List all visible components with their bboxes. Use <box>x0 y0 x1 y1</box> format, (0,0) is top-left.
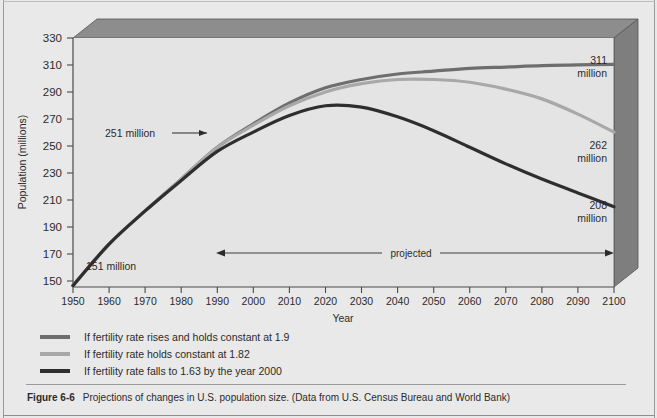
figure-border-bottom <box>3 415 655 416</box>
x-tick-label: 1970 <box>133 295 157 307</box>
x-axis-tick-labels: 1950 1960 1970 1980 1990 2000 2010 2020 … <box>61 295 626 307</box>
end-label-high-unit: million <box>577 67 607 79</box>
x-tick-label: 2080 <box>530 295 554 307</box>
figure-number: Figure 6-6 <box>27 392 75 403</box>
y-tick-label: 230 <box>43 167 62 179</box>
y-tick-label: 330 <box>43 32 62 44</box>
figure-caption: Figure 6-6Projections of changes in U.S.… <box>27 392 647 403</box>
chart-legend: If fertility rate rises and holds consta… <box>40 330 460 381</box>
x-axis-title: Year <box>332 312 354 324</box>
x-tick-label: 2000 <box>242 295 266 307</box>
x-tick-label: 2070 <box>494 295 518 307</box>
y-axis-title: Population (millions) <box>16 115 28 210</box>
legend-item-1-9: If fertility rate rises and holds consta… <box>40 330 460 344</box>
x-tick-label: 2100 <box>602 295 626 307</box>
legend-label-1-82: If fertility rate holds constant at 1.82 <box>84 347 250 361</box>
end-label-low-number: 208 <box>589 199 607 211</box>
population-projection-chart: 330 310 290 270 250 230 210 190 170 150 … <box>0 0 657 330</box>
legend-label-1-9: If fertility rate rises and holds consta… <box>84 330 289 344</box>
figure-caption-text: Projections of changes in U.S. populatio… <box>83 392 510 403</box>
x-tick-label: 2030 <box>350 295 374 307</box>
x-tick-label: 1950 <box>61 295 85 307</box>
x-tick-label: 2010 <box>278 295 302 307</box>
legend-swatch-1-9 <box>40 335 70 339</box>
box-right-face <box>614 19 638 287</box>
x-tick-label: 2060 <box>458 295 482 307</box>
figure-container: 330 310 290 270 250 230 210 190 170 150 … <box>0 0 657 418</box>
end-label-high-number: 311 <box>590 54 607 66</box>
y-tick-label: 150 <box>43 275 62 287</box>
y-tick-label: 310 <box>43 59 62 71</box>
y-axis-tick-labels: 330 310 290 270 250 230 210 190 170 150 <box>43 32 62 287</box>
x-tick-label: 1980 <box>170 295 194 307</box>
annotation-151-million: 151 million <box>86 260 136 272</box>
x-tick-label: 1960 <box>97 295 121 307</box>
y-tick-label: 270 <box>43 113 62 125</box>
y-tick-label: 170 <box>43 248 62 260</box>
legend-item-1-82: If fertility rate holds constant at 1.82 <box>40 347 460 361</box>
caption-divider <box>26 384 626 385</box>
x-tick-label: 2020 <box>314 295 338 307</box>
x-axis-ticks <box>73 287 614 293</box>
x-tick-label: 1990 <box>206 295 230 307</box>
legend-item-1-63: If fertility rate falls to 1.63 by the y… <box>40 364 460 378</box>
x-tick-label: 2050 <box>422 295 446 307</box>
end-label-low-unit: million <box>577 212 607 224</box>
end-label-mid-unit: million <box>577 152 607 164</box>
legend-swatch-1-63 <box>40 369 70 373</box>
projected-label: projected <box>390 248 431 259</box>
y-tick-label: 210 <box>43 194 62 206</box>
legend-label-1-63: If fertility rate falls to 1.63 by the y… <box>84 364 282 378</box>
annotation-151-label: 151 million <box>86 260 136 272</box>
plot-area <box>73 38 614 287</box>
annotation-251-label: 251 million <box>105 127 155 139</box>
x-tick-label: 2040 <box>386 295 410 307</box>
legend-swatch-1-82 <box>40 352 70 356</box>
end-label-mid-number: 262 <box>589 139 607 151</box>
y-tick-label: 250 <box>43 140 62 152</box>
y-tick-label: 190 <box>43 221 62 233</box>
x-tick-label: 2090 <box>566 295 590 307</box>
y-tick-label: 290 <box>43 86 62 98</box>
box-top-face <box>73 19 638 38</box>
y-axis-ticks <box>67 38 73 281</box>
